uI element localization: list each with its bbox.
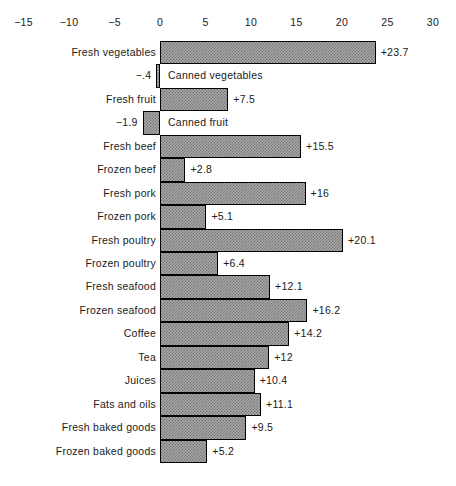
bar-row: Frozen pork+5.1	[0, 205, 456, 228]
bar	[160, 369, 255, 392]
bar	[160, 158, 185, 181]
bar	[160, 416, 246, 439]
bar-value-label: +9.5	[251, 416, 273, 439]
category-label: Canned fruit	[168, 111, 228, 134]
bar-row: Coffee+14.2	[0, 322, 456, 345]
bar-value-label: +15.5	[306, 135, 334, 158]
bar-row: Fats and oils+11.1	[0, 393, 456, 416]
bar-value-label: +16	[311, 182, 330, 205]
bar-row: Fresh fruit+7.5	[0, 88, 456, 111]
bar	[160, 88, 228, 111]
bar-row: Frozen baked goods+5.2	[0, 440, 456, 463]
bar-row: Frozen seafood+16.2	[0, 299, 456, 322]
bar-value-label: +23.7	[381, 41, 409, 64]
x-axis: −15−10−5051015202530	[0, 0, 456, 36]
category-label: Tea	[138, 346, 156, 369]
category-label: Frozen baked goods	[56, 440, 156, 463]
bar-value-label: −1.9	[116, 111, 138, 134]
category-label: Fresh baked goods	[62, 416, 156, 439]
bar-row: Canned vegetables−.4	[0, 64, 456, 87]
bar-row: Fresh poultry+20.1	[0, 229, 456, 252]
category-label: Fresh beef	[103, 135, 156, 158]
bar-row: Fresh seafood+12.1	[0, 275, 456, 298]
x-axis-tick-label: 20	[336, 16, 348, 28]
category-label: Frozen pork	[97, 205, 156, 228]
x-axis-tick-label: 30	[427, 16, 439, 28]
bar	[160, 440, 207, 463]
bar-value-label: +12.1	[275, 275, 303, 298]
bar-row: Fresh beef+15.5	[0, 135, 456, 158]
category-label: Juices	[125, 369, 156, 392]
category-label: Fresh vegetables	[71, 41, 156, 64]
category-label: Fresh pork	[103, 182, 156, 205]
bar-row: Fresh pork+16	[0, 182, 456, 205]
bar-row: Fresh baked goods+9.5	[0, 416, 456, 439]
bar-value-label: +5.1	[211, 205, 233, 228]
bar-value-label: +14.2	[294, 322, 322, 345]
bar	[160, 205, 206, 228]
bar-value-label: +12	[274, 346, 293, 369]
bar-row: Canned fruit−1.9	[0, 111, 456, 134]
category-label: Fresh poultry	[91, 229, 156, 252]
category-label: Fats and oils	[93, 393, 156, 416]
bar	[160, 41, 376, 64]
category-label: Fresh seafood	[86, 275, 156, 298]
x-axis-tick-label: −5	[108, 16, 121, 28]
bar	[160, 135, 301, 158]
horizontal-bar-chart: −15−10−5051015202530 Fresh vegetables+23…	[0, 0, 456, 486]
bar-value-label: +7.5	[233, 88, 255, 111]
bar	[160, 182, 306, 205]
x-axis-tick-label: −10	[60, 16, 79, 28]
bar-value-label: −.4	[136, 64, 152, 87]
category-label: Frozen beef	[97, 158, 156, 181]
x-axis-tick-label: 15	[290, 16, 302, 28]
plot-area: Fresh vegetables+23.7Canned vegetables−.…	[0, 41, 456, 463]
bar-value-label: +20.1	[348, 229, 376, 252]
bar-value-label: +2.8	[190, 158, 212, 181]
bar	[143, 111, 160, 134]
x-axis-tick-label: 25	[381, 16, 393, 28]
bar	[160, 346, 269, 369]
bar-value-label: +5.2	[212, 440, 234, 463]
bar-row: Tea+12	[0, 346, 456, 369]
category-label: Fresh fruit	[106, 88, 156, 111]
bar-row: Frozen beef+2.8	[0, 158, 456, 181]
bar	[156, 64, 160, 87]
bar	[160, 252, 218, 275]
bar-value-label: +11.1	[266, 393, 293, 416]
bar-value-label: +6.4	[223, 252, 245, 275]
x-axis-tick-label: 5	[202, 16, 208, 28]
bar	[160, 322, 289, 345]
bar-row: Juices+10.4	[0, 369, 456, 392]
x-axis-tick-label: 10	[245, 16, 257, 28]
category-label: Canned vegetables	[168, 64, 263, 87]
bar	[160, 299, 307, 322]
bar	[160, 393, 261, 416]
bar	[160, 275, 270, 298]
bar-row: Fresh vegetables+23.7	[0, 41, 456, 64]
x-axis-tick-label: −15	[14, 16, 33, 28]
x-axis-tick-label: 0	[157, 16, 163, 28]
bar-value-label: +16.2	[312, 299, 340, 322]
bar-row: Frozen poultry+6.4	[0, 252, 456, 275]
category-label: Frozen poultry	[85, 252, 156, 275]
category-label: Frozen seafood	[80, 299, 156, 322]
bar-value-label: +10.4	[260, 369, 288, 392]
bar	[160, 229, 343, 252]
category-label: Coffee	[124, 322, 156, 345]
